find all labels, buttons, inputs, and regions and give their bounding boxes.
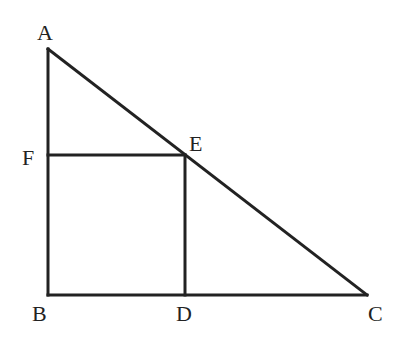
segment-AC <box>48 49 367 295</box>
label-E: E <box>189 131 202 156</box>
label-F: F <box>22 145 34 170</box>
geometry-diagram: A F E B D C <box>0 0 403 340</box>
label-B: B <box>32 301 47 326</box>
label-A: A <box>37 20 53 45</box>
label-C: C <box>368 301 383 326</box>
label-D: D <box>176 301 192 326</box>
